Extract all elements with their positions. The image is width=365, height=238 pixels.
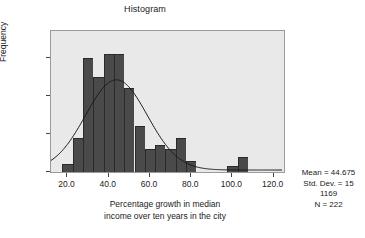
x-tick-mark (231, 173, 232, 177)
plot-inner (51, 31, 284, 172)
normal-curve-overlay (51, 31, 284, 172)
mean-label: Mean = 44.675 (292, 168, 365, 179)
plot-area (50, 30, 285, 173)
y-axis-label: Frequency (0, 22, 8, 62)
x-axis-label: Percentage growth in median income over … (40, 198, 290, 222)
sample-size-label: N = 222 (292, 200, 365, 211)
x-tick-label: 20.0 (46, 179, 86, 189)
stddev-continuation: 1169 (292, 189, 365, 200)
x-tick-label: 100.0 (211, 179, 251, 189)
stddev-label: Std. Dev. = 15 (292, 179, 365, 190)
statistics-annotation: Mean = 44.675 Std. Dev. = 15 1169 N = 22… (292, 168, 365, 210)
x-tick-mark (108, 173, 109, 177)
x-tick-mark (273, 173, 274, 177)
x-tick-mark (149, 173, 150, 177)
x-tick-mark (190, 173, 191, 177)
x-axis-label-line2: income over ten years in the city (40, 210, 290, 222)
x-tick-label: 40.0 (88, 179, 128, 189)
x-axis-label-line1: Percentage growth in median (40, 198, 290, 210)
x-tick-label: 80.0 (170, 179, 210, 189)
histogram-figure: Histogram Frequency 0102030 20.040.060.0… (0, 0, 365, 238)
x-tick-label: 120.0 (253, 179, 293, 189)
x-tick-mark (66, 173, 67, 177)
x-tick-label: 60.0 (129, 179, 169, 189)
chart-title: Histogram (0, 4, 290, 14)
